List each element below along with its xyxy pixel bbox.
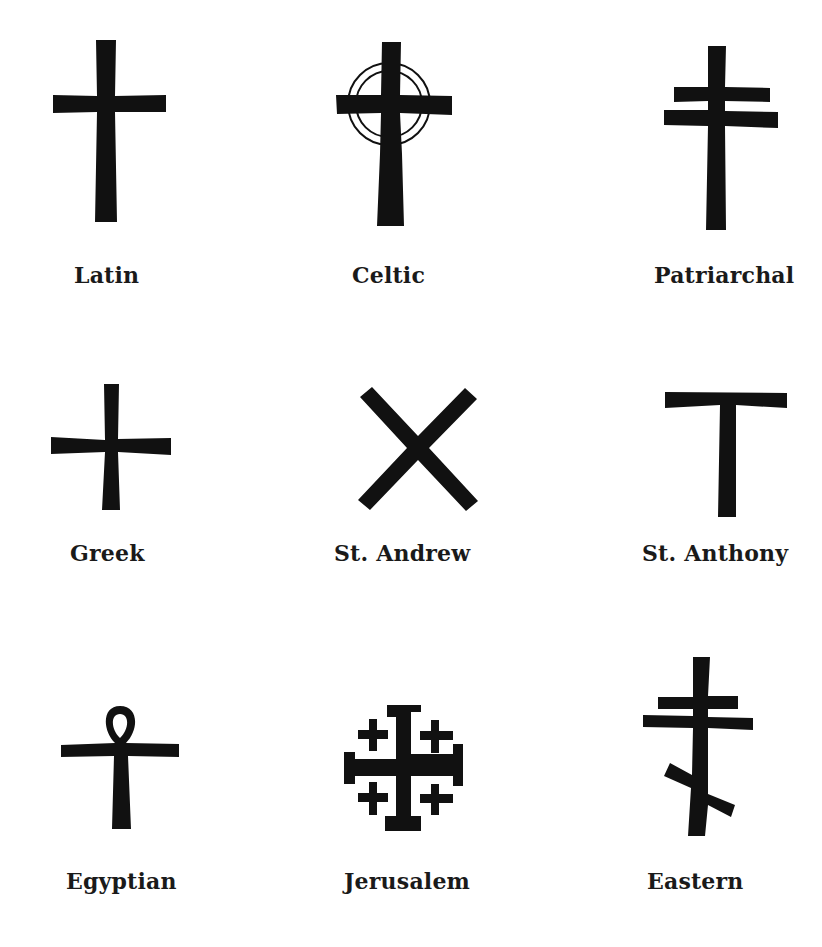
cross-egyptian: Egyptian	[40, 660, 220, 910]
cross-jerusalem: Jerusalem	[320, 680, 500, 910]
cross-st-anthony: St. Anthony	[620, 360, 822, 580]
cross-st-andrew: St. Andrew	[320, 360, 520, 580]
cross-label: Jerusalem	[344, 868, 470, 894]
cross-label: Latin	[74, 262, 139, 288]
cross-label: Greek	[70, 540, 145, 566]
greek-cross-icon	[0, 360, 274, 560]
cross-label: St. Anthony	[642, 540, 788, 566]
latin-cross-icon	[0, 0, 274, 300]
eastern-cross-icon	[620, 640, 822, 870]
cross-label: Patriarchal	[654, 262, 794, 288]
cross-patriarchal: Patriarchal	[620, 20, 822, 300]
egyptian-cross-icon	[40, 660, 220, 880]
st-anthony-cross-icon	[620, 360, 822, 560]
cross-latin: Latin	[0, 0, 274, 300]
cross-label: St. Andrew	[334, 540, 470, 566]
celtic-cross-icon	[300, 20, 500, 250]
cross-label: Egyptian	[66, 868, 177, 894]
cross-label: Celtic	[352, 262, 425, 288]
st-andrew-cross-icon	[320, 360, 520, 560]
cross-greek: Greek	[0, 360, 274, 580]
cross-celtic: Celtic	[300, 20, 500, 300]
cross-eastern: Eastern	[620, 640, 822, 910]
jerusalem-cross-icon	[320, 680, 500, 880]
patriarchal-cross-icon	[620, 20, 822, 250]
cross-label: Eastern	[647, 868, 744, 894]
